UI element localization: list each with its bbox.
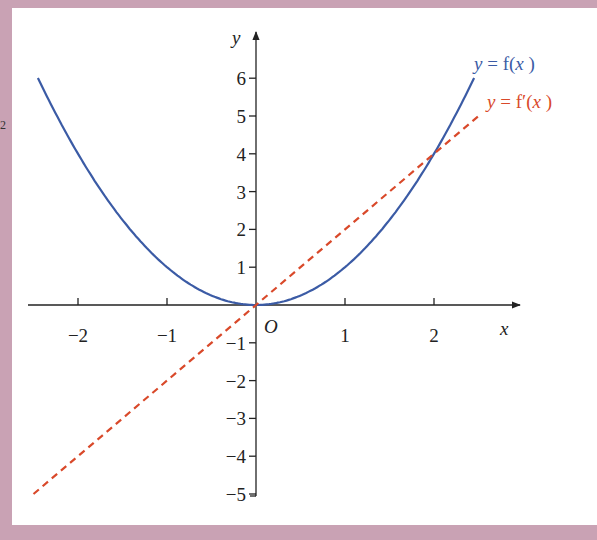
y-tick-label: 2 [237, 219, 247, 240]
y-tick-label: 3 [237, 182, 247, 203]
x-tick-label: −1 [157, 325, 177, 346]
legend-f-prime: y = f′(x ) [485, 91, 552, 113]
chart-svg: −2−112−5−4−3−2−1123456 y x O y = f(x ) y… [0, 0, 597, 540]
y-tick-label: −3 [226, 408, 246, 429]
x-tick-label: 2 [429, 325, 439, 346]
origin-label: O [264, 316, 278, 337]
x-axis-label: x [499, 318, 509, 339]
tick-labels: −2−112−5−4−3−2−1123456 [68, 68, 439, 505]
x-tick-label: −2 [68, 325, 88, 346]
y-tick-label: −1 [226, 333, 246, 354]
y-tick-label: 6 [237, 68, 247, 89]
y-tick-label: −2 [226, 371, 246, 392]
legend-f: y = f(x ) [472, 53, 535, 75]
y-tick-label: 5 [237, 106, 247, 127]
y-tick-label: −4 [226, 446, 247, 467]
y-tick-label: 1 [237, 257, 247, 278]
y-tick-label: 4 [237, 144, 247, 165]
axes [28, 32, 520, 496]
y-axis-label: y [230, 27, 241, 48]
x-tick-label: 1 [340, 325, 350, 346]
y-tick-label: −5 [226, 484, 246, 505]
